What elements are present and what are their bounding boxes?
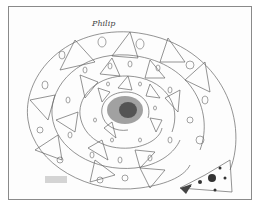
spiral-drawing	[0, 0, 260, 217]
smudge-mark	[45, 176, 67, 183]
